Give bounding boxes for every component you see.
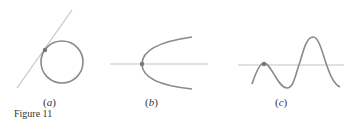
circle-curve: [41, 41, 83, 83]
panel-a: [17, 10, 83, 88]
vertex-point: [140, 62, 144, 66]
tangent-point: [43, 48, 47, 52]
parabola-curve: [142, 37, 192, 89]
panel-label-a: (a): [43, 96, 56, 108]
panel-b: [110, 37, 208, 89]
figure-caption: Figure 11: [14, 108, 52, 119]
figure-canvas: [0, 0, 361, 130]
label-close-paren: ): [52, 96, 56, 108]
tangent-point: [262, 62, 266, 66]
panel-label-b: (b): [145, 96, 158, 108]
panel-label-c: (c): [275, 96, 287, 108]
label-close-paren: ): [284, 96, 288, 108]
panel-c: [238, 37, 344, 88]
label-close-paren: ): [154, 96, 158, 108]
